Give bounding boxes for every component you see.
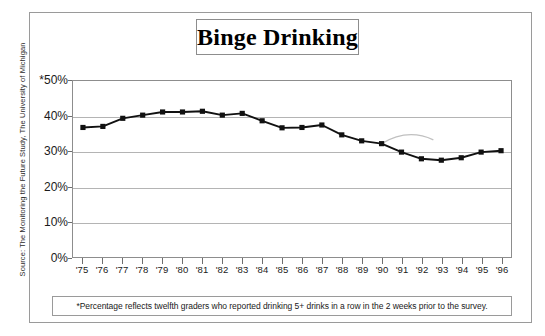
x-tick-label-93: '93 [436,264,448,275]
data-point-86 [299,125,304,130]
x-tick-label-82: '82 [216,264,228,275]
data-point-95 [479,150,484,155]
x-tick-label-81: '81 [196,264,208,275]
x-tick-label-76: '76 [96,264,108,275]
title-box: Binge Drinking [196,19,359,55]
data-point-92 [419,156,424,161]
data-point-96 [498,148,503,153]
x-tick-label-90: '90 [376,264,388,275]
binge-drinking-series [73,81,511,257]
data-point-82 [220,113,225,118]
x-tick-label-80: '80 [176,264,188,275]
y-tick-mark-20 [68,187,72,188]
data-point-85 [279,125,284,130]
data-point-90 [379,141,384,146]
data-point-91 [399,150,404,155]
y-axis-tick-labels: 0%10%20%30%40%*50% [28,80,68,258]
data-point-88 [339,132,344,137]
data-point-78 [140,113,145,118]
y-tick-mark-0 [68,258,72,259]
y-tick-mark-40 [68,116,72,117]
source-credit: Source: The Monitoring the Future Study,… [18,20,27,300]
data-point-75 [80,125,85,130]
data-point-94 [459,155,464,160]
y-tick-label-20: 20% [44,180,68,194]
plot-area [72,80,512,258]
data-point-77 [120,116,125,121]
footnote-text: *Percentage reflects twelfth graders who… [76,301,487,311]
chart-figure: Source: The Monitoring the Future Study,… [0,0,545,336]
data-point-81 [200,109,205,114]
data-point-89 [359,138,364,143]
x-axis-tick-labels: '75'76'77'78'79'80'81'82'83'84'85'86'87'… [72,264,512,278]
x-tick-label-89: '89 [356,264,368,275]
footnote-box: *Percentage reflects twelfth graders who… [52,296,512,316]
x-tick-label-84: '84 [256,264,268,275]
y-tick-mark-50 [68,80,72,81]
x-tick-label-75: '75 [76,264,88,275]
y-tick-label-40: 40% [44,109,68,123]
data-point-83 [240,111,245,116]
y-tick-label-50: *50% [39,73,68,87]
x-tick-label-77: '77 [116,264,128,275]
data-point-80 [180,109,185,114]
page-title: Binge Drinking [197,25,358,49]
x-tick-label-83: '83 [236,264,248,275]
y-tick-label-10: 10% [44,215,68,229]
x-tick-label-79: '79 [156,264,168,275]
y-tick-label-0: 0% [51,251,68,265]
data-point-87 [319,122,324,127]
y-tick-mark-30 [68,151,72,152]
x-tick-label-94: '94 [456,264,468,275]
x-tick-label-85: '85 [276,264,288,275]
x-tick-label-87: '87 [316,264,328,275]
y-tick-mark-10 [68,222,72,223]
x-tick-label-92: '92 [416,264,428,275]
scan-arc-artifact [382,135,434,144]
x-tick-label-91: '91 [396,264,408,275]
data-point-84 [260,118,265,123]
x-tick-label-95: '95 [476,264,488,275]
x-tick-label-86: '86 [296,264,308,275]
x-tick-label-78: '78 [136,264,148,275]
x-tick-label-88: '88 [336,264,348,275]
x-tick-label-96: '96 [496,264,508,275]
y-tick-label-30: 30% [44,144,68,158]
data-point-76 [100,124,105,129]
series-line [83,111,501,160]
data-point-93 [439,158,444,163]
data-point-79 [160,109,165,114]
